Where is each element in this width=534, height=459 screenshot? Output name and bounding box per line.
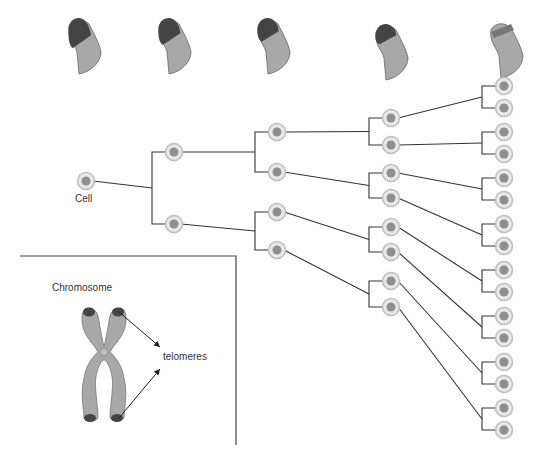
cell xyxy=(383,190,400,207)
telomeres-label: telomeres xyxy=(163,351,207,362)
cell xyxy=(383,219,400,236)
cell xyxy=(496,376,513,393)
chromosome-arm-icon xyxy=(375,24,408,80)
cell xyxy=(496,262,513,279)
cell xyxy=(496,216,513,233)
chromosome-arm-icon xyxy=(491,24,523,78)
cell xyxy=(496,192,513,209)
cell xyxy=(269,124,286,141)
cell xyxy=(496,308,513,325)
chromosome-arm-icon xyxy=(158,18,191,74)
chromosome-arms-row xyxy=(68,18,523,80)
telomere-cap xyxy=(83,308,95,317)
cell xyxy=(383,273,400,290)
cell xyxy=(383,299,400,316)
cell xyxy=(383,244,400,261)
chromosome-icon xyxy=(82,308,126,423)
cell xyxy=(383,137,400,154)
cell xyxy=(383,165,400,182)
cell xyxy=(269,242,286,259)
chromosome-label: Chromosome xyxy=(52,282,112,293)
cell xyxy=(496,284,513,301)
cell xyxy=(496,124,513,141)
cell xyxy=(496,100,513,117)
cell xyxy=(269,164,286,181)
cell xyxy=(78,173,95,190)
cell xyxy=(496,400,513,417)
telomere-diagram xyxy=(0,0,534,459)
arrow-top xyxy=(119,312,160,347)
cell xyxy=(166,144,183,161)
cell-label: Cell xyxy=(75,193,92,204)
cell xyxy=(496,78,513,95)
chromosome-arm-icon xyxy=(68,18,101,74)
cell xyxy=(166,216,183,233)
division-tree-lines xyxy=(93,86,496,430)
cell xyxy=(496,354,513,371)
cell xyxy=(496,238,513,255)
cell xyxy=(383,110,400,127)
cell xyxy=(496,330,513,347)
telomere-cap xyxy=(84,414,96,422)
cell xyxy=(496,146,513,163)
chromosome-arm-icon xyxy=(257,18,290,74)
cell xyxy=(496,170,513,187)
cell xyxy=(496,422,513,439)
cell xyxy=(269,204,286,221)
centromere xyxy=(100,348,108,356)
